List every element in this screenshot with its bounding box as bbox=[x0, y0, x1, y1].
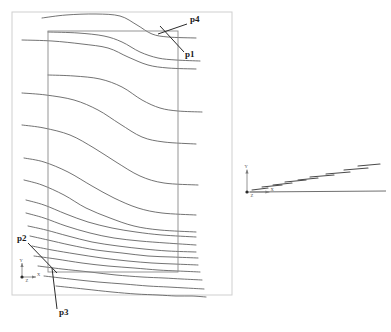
curve-04 bbox=[48, 75, 202, 112]
leader-line-p3 bbox=[52, 268, 57, 309]
coordinate-triad-right: YXZ bbox=[245, 164, 275, 198]
step-06 bbox=[310, 175, 334, 177]
curve-01 bbox=[42, 14, 196, 38]
label-p3: p3 bbox=[59, 307, 69, 317]
label-p4: p4 bbox=[190, 14, 200, 24]
axis-z-origin bbox=[20, 275, 23, 278]
step-03 bbox=[273, 183, 292, 185]
curve-07 bbox=[24, 158, 196, 215]
step-08 bbox=[344, 168, 368, 170]
curve-13 bbox=[32, 246, 198, 265]
step-09 bbox=[358, 164, 380, 166]
engineering-contour-figure: p4p1p2p3 YXZ YXZ bbox=[0, 0, 391, 332]
axis-x-arrow bbox=[32, 275, 36, 278]
step-07 bbox=[326, 172, 350, 174]
curve-08 bbox=[24, 180, 196, 232]
axis-z-origin bbox=[245, 190, 248, 193]
curve-11 bbox=[28, 226, 196, 252]
leader-line-p1 bbox=[160, 26, 184, 52]
step-05 bbox=[298, 178, 318, 180]
leader-line-p2 bbox=[28, 243, 57, 273]
diagram-canvas: p4p1p2p3 YXZ YXZ bbox=[0, 0, 391, 332]
curve-12 bbox=[30, 236, 198, 258]
axis-y-arrow bbox=[245, 170, 248, 174]
step-01 bbox=[252, 188, 268, 190]
axis-x-label: X bbox=[270, 187, 274, 192]
axis-y-arrow bbox=[20, 263, 23, 267]
coordinate-triad-main: YXZ bbox=[20, 258, 42, 284]
curve-10 bbox=[26, 213, 196, 245]
axis-x-label: X bbox=[37, 272, 41, 277]
step-04 bbox=[285, 180, 306, 182]
curve-02 bbox=[48, 32, 200, 61]
label-p1: p1 bbox=[185, 49, 195, 59]
axis-x-arrow bbox=[265, 190, 269, 193]
axis-z-label: Z bbox=[251, 193, 254, 198]
axis-z-label: Z bbox=[26, 278, 29, 283]
annotation-p3: p3 bbox=[52, 268, 69, 317]
axis-y-label: Y bbox=[20, 258, 24, 263]
label-p2: p2 bbox=[17, 233, 27, 243]
axis-y-label: Y bbox=[245, 164, 249, 169]
